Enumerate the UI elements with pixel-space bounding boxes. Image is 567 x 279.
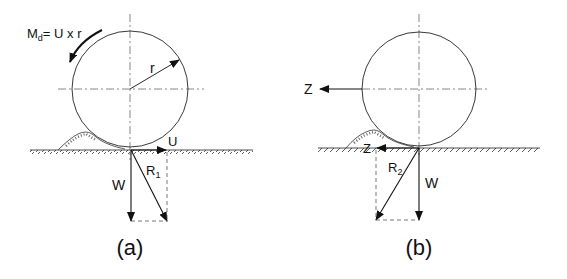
radius-label: r — [150, 60, 155, 76]
force-u-label: U — [168, 134, 177, 149]
panel-b: Z Z W R2 (b) — [304, 14, 540, 260]
soil-mound — [58, 132, 125, 150]
ground-hatch — [30, 150, 253, 154]
soil-mound — [346, 130, 414, 148]
ground-hatch — [318, 148, 540, 152]
resultant-r1-arrow — [131, 150, 167, 221]
force-w-label: W — [112, 177, 126, 193]
force-w-label: W — [425, 175, 439, 191]
wheel-force-diagram: r Md= U x r U W R1 (a) Z — [0, 0, 567, 279]
caption-a: (a) — [117, 235, 144, 260]
force-z-top-label: Z — [304, 81, 313, 97]
soil-mound-hatch — [66, 134, 96, 146]
resultant-r2-label: R2 — [388, 160, 402, 177]
resultant-r1-label: R1 — [146, 163, 160, 180]
moment-label: Md= U x r — [27, 26, 82, 43]
panel-a: r Md= U x r U W R1 (a) — [27, 14, 253, 260]
force-z-ground-label: Z — [363, 141, 371, 156]
caption-b: (b) — [406, 235, 433, 260]
resultant-r2-arrow — [376, 148, 419, 220]
